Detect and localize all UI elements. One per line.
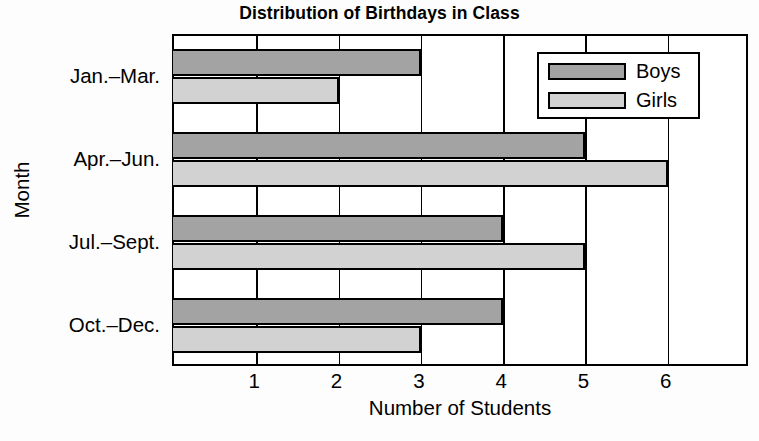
bar-boys	[173, 215, 503, 242]
bar-girls	[173, 326, 421, 353]
legend-entry-boys: Boys	[548, 60, 680, 82]
bar-boys	[173, 49, 421, 76]
x-tick-label: 6	[646, 370, 686, 392]
x-tick-label: 2	[317, 370, 357, 392]
plot-area: Boys Girls	[172, 34, 748, 366]
bar-girls	[173, 160, 668, 187]
x-tick-label: 5	[563, 370, 603, 392]
y-tick-label: Apr.–Jun.	[0, 149, 160, 169]
y-axis-tick-labels: Jan.–Mar.Apr.–Jun.Jul.–Sept.Oct.–Dec.	[0, 34, 166, 366]
bar-group	[174, 119, 746, 202]
bar-girls	[173, 77, 339, 104]
bar-boys	[173, 298, 503, 325]
x-tick-label: 4	[481, 370, 521, 392]
bar-chart: Distribution of Birthdays in Class Month…	[0, 0, 759, 441]
bar-boys	[173, 132, 585, 159]
chart-legend: Boys Girls	[537, 52, 700, 119]
legend-label-girls: Girls	[636, 90, 677, 110]
bar-group	[174, 202, 746, 285]
legend-label-boys: Boys	[636, 61, 680, 81]
legend-entry-girls: Girls	[548, 89, 677, 111]
x-tick-label: 3	[399, 370, 439, 392]
y-tick-label: Jul.–Sept.	[0, 232, 160, 252]
boys-swatch-icon	[548, 63, 626, 80]
x-axis-title: Number of Students	[172, 396, 748, 420]
y-tick-label: Jan.–Mar.	[0, 66, 160, 86]
girls-swatch-icon	[548, 92, 626, 109]
x-tick-label: 1	[234, 370, 274, 392]
chart-title: Distribution of Birthdays in Class	[0, 3, 759, 24]
y-tick-label: Oct.–Dec.	[0, 315, 160, 335]
bar-group	[174, 285, 746, 368]
bar-girls	[173, 243, 585, 270]
